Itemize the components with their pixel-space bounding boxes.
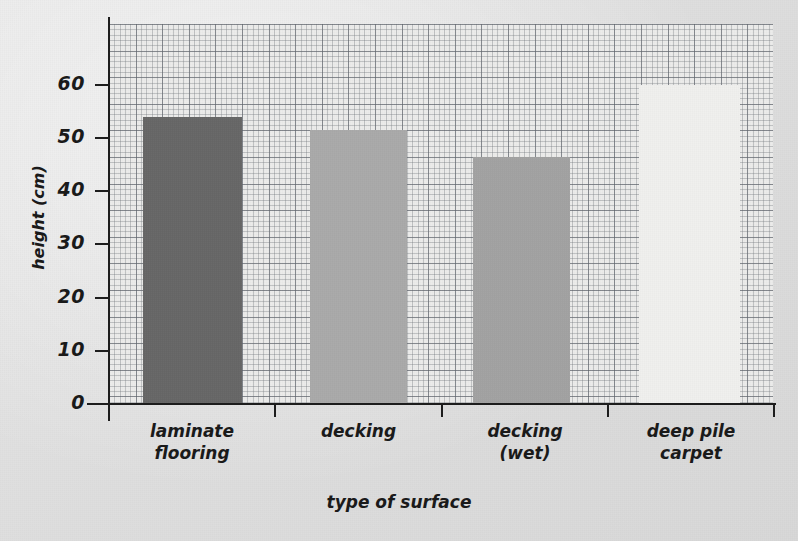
y-tick-label-0: 0 (25, 391, 85, 413)
x-tick-1 (274, 404, 276, 417)
bar-laminate-flooring (143, 117, 242, 404)
x-category-label-0-line-0: laminate (109, 421, 275, 443)
y-tick-30 (95, 243, 109, 245)
x-axis-line (87, 403, 776, 405)
x-category-label-3-line-0: deep pile (608, 421, 774, 443)
x-category-label-1-line-0: decking (275, 421, 442, 443)
y-tick-10 (95, 350, 109, 352)
y-tick-20 (95, 297, 109, 299)
x-category-label-2: decking(wet) (442, 421, 608, 465)
x-tick-3 (607, 404, 609, 417)
x-category-label-0: laminateflooring (109, 421, 275, 465)
x-category-label-0-line-1: flooring (109, 443, 275, 465)
x-category-label-2-line-1: (wet) (442, 443, 608, 465)
x-tick-2 (441, 404, 443, 417)
bar-chart: 0102030405060 laminateflooringdeckingdec… (0, 0, 798, 541)
x-category-label-2-line-0: decking (442, 421, 608, 443)
y-tick-60 (95, 84, 109, 86)
x-category-label-1: decking (275, 421, 442, 443)
bar-decking (310, 130, 407, 404)
x-category-label-3-line-1: carpet (608, 443, 774, 465)
y-tick-0 (95, 403, 109, 405)
bar-decking-wet (473, 157, 570, 404)
y-tick-label-60: 60 (25, 72, 85, 94)
x-tick-0 (108, 404, 110, 417)
bar-deep-pile-carpet (639, 85, 740, 404)
y-tick-label-10: 10 (25, 338, 85, 360)
x-tick-4 (773, 404, 775, 417)
y-axis-line (108, 17, 110, 421)
y-tick-40 (95, 190, 109, 192)
x-category-label-3: deep pilecarpet (608, 421, 774, 465)
plot-area (109, 24, 773, 404)
x-axis-title: type of surface (0, 492, 798, 512)
y-tick-50 (95, 137, 109, 139)
y-axis-title: height (cm) (29, 138, 48, 298)
